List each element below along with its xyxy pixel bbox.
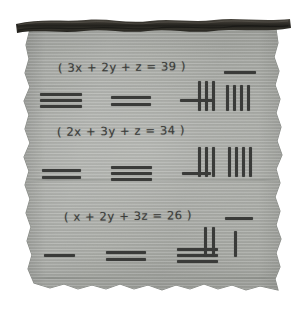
coefficient-row-2 — [42, 166, 211, 181]
rod-numeral-26 — [204, 223, 237, 257]
equation-3: ( x + 2y + 3z = 26 ) — [64, 208, 192, 224]
coefficient-x-1 — [44, 254, 75, 257]
rod-digit-units-4 — [228, 147, 252, 177]
equation-2: ( 2x + 3y + z = 34 ) — [57, 123, 185, 139]
coefficient-y-2 — [106, 251, 146, 261]
rod-numeral-34 — [198, 147, 252, 177]
scroll-scene: ( 3x + 2y + z = 39 ) — [0, 0, 304, 317]
scroll-rod — [14, 16, 292, 35]
rod-digit-units-9 — [226, 71, 250, 111]
rod-digit-tens-2 — [204, 227, 215, 257]
coefficient-y-3 — [111, 166, 152, 181]
coefficient-y-2 — [111, 96, 151, 106]
rod-digit-tens-3 — [198, 147, 215, 177]
coefficient-x-2 — [42, 169, 81, 179]
coefficient-row-1 — [40, 93, 213, 108]
coefficient-x-3 — [40, 93, 82, 108]
rod-digit-units-6 — [225, 217, 237, 257]
equation-1: ( 3x + 2y + z = 39 ) — [58, 59, 186, 75]
parchment-sheet: ( 3x + 2y + z = 39 ) — [22, 27, 284, 292]
rod-digit-tens-3 — [198, 81, 215, 111]
scroll-contents: ( 3x + 2y + z = 39 ) — [22, 27, 284, 292]
rod-numeral-39 — [198, 77, 250, 111]
coefficient-row-3 — [44, 248, 218, 263]
